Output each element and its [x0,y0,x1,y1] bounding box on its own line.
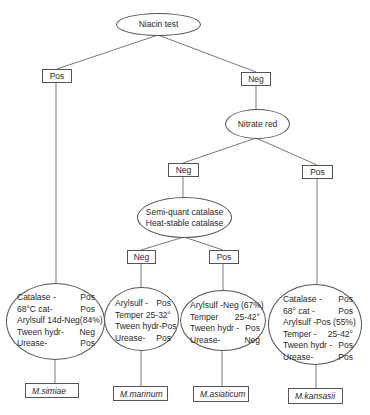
result-kansasii-traits: Catalase -Pos 68° cat -Pos Arylsulf -Pos… [283,294,353,363]
trait-value: Pos [80,292,95,304]
trait-name: Urease- [283,352,313,364]
trait-name: Temper [115,310,143,322]
species-kansasii: M.kansasii [288,388,343,404]
trait-name: Tween hydr- [17,327,64,339]
trait-name: Arylsulf - [283,317,316,329]
trait-name: Tween hydr - [190,323,239,335]
trait-value: Pos [156,333,171,345]
trait-value: (84%) [80,315,103,327]
trait-value: Pos [338,340,353,352]
trait-value: Pos (55%) [316,317,356,329]
trait-name: 68° cat - [283,306,315,318]
trait-name: Temper - [283,329,317,341]
trait-value: Pos [338,352,353,364]
result-simiae-traits: Catalase -Pos 68°C cat-Pos Arylsulf 14d-… [17,292,95,350]
nitrate-neg-node: Neg [168,163,199,177]
trait-name: Tween hydr- [115,321,162,333]
trait-name: Tween hydr - [283,340,332,352]
trait-value: Pos [338,306,353,318]
catalase-line2: Heat-stable catalase [146,218,224,229]
catalase-pos-label: Pos [217,252,232,262]
species-asiaticum: M.asiaticum [193,386,249,402]
trait-value: Pos [80,304,95,316]
nitrate-pos-node: Pos [302,165,333,179]
trait-value: Neg [79,327,95,339]
trait-name: Temper [190,312,218,324]
trait-name: Arylsulf - [190,300,223,312]
trait-name: Arylsulf - [115,298,148,310]
trait-value: 25-42° [328,329,353,341]
species-label: M.simiae [32,386,66,396]
result-asiaticum-traits: Arylsulf -Neg (67%) Temper25-42° Tween h… [190,300,260,346]
trait-name: Urease- [17,338,47,350]
trait-value: Pos [162,321,177,333]
nitrate-red-label: Nitrate red [238,119,278,130]
niacin-test-node: Niacin test [116,13,201,36]
catalase-pos-node: Pos [209,250,239,264]
trait-value: Pos [245,323,260,335]
trait-value: 25-42° [235,312,260,324]
trait-value: Pos [338,294,353,306]
trait-value: Pos [80,338,95,350]
species-label: M.marinum [120,389,163,399]
niacin-pos-node: Pos [42,69,72,83]
trait-value: Neg [244,335,260,347]
trait-name: 68°C cat- [17,304,53,316]
catalase-node: Semi-quant catalase Heat-stable catalase [137,197,232,238]
trait-name: Catalase - [283,294,322,306]
trait-name: Arylsulf 14d-Neg [17,315,80,327]
species-label: M.kansasii [295,391,335,401]
niacin-test-label: Niacin test [139,19,179,30]
trait-name: Catalase - [17,292,56,304]
catalase-neg-node: Neg [127,250,156,264]
trait-name: Urease- [190,335,220,347]
catalase-neg-label: Neg [134,252,150,262]
niacin-neg-label: Neg [248,74,264,84]
catalase-line1: Semi-quant catalase [146,207,224,218]
result-marinum-traits: Arylsulf -Pos Temper25-32° Tween hydr-Po… [115,298,171,344]
trait-name: Urease- [115,333,145,345]
trait-value: Pos [156,298,171,310]
species-marinum: M.marinum [113,386,168,401]
trait-value: Neg (67%) [223,300,264,312]
nitrate-red-node: Nitrate red [225,109,290,139]
trait-value: 25-32° [146,310,171,322]
nitrate-pos-label: Pos [310,167,325,177]
nitrate-neg-label: Neg [176,165,192,175]
niacin-pos-label: Pos [50,71,65,81]
niacin-neg-node: Neg [241,72,271,86]
species-simiae: M.simiae [25,383,79,398]
species-label: M.asiaticum [200,389,245,399]
